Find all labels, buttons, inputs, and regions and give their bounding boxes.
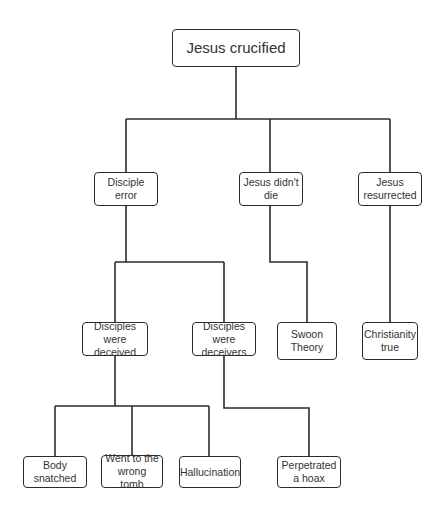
- node-label: Went to the wrong tomb: [105, 452, 159, 491]
- tree-diagram: Jesus crucified Disciple error Jesus did…: [0, 0, 446, 523]
- node-jesus-resurrected: Jesus resurrected: [358, 172, 422, 206]
- node-disciple-error: Disciple error: [94, 172, 158, 206]
- node-swoon-theory: Swoon Theory: [277, 322, 337, 360]
- node-label: Jesus didn't die: [243, 176, 299, 202]
- node-label: Hallucination: [180, 466, 240, 479]
- node-label: Jesus resurrected: [362, 176, 418, 202]
- node-christianity-true: Christianity true: [362, 322, 418, 360]
- node-label: Body snatched: [27, 459, 83, 485]
- node-label: Perpetrated a hoax: [281, 459, 337, 485]
- node-jesus-didnt-die: Jesus didn't die: [239, 172, 303, 206]
- connector-to-swoon-theory: [270, 206, 307, 322]
- node-jesus-crucified: Jesus crucified: [172, 29, 300, 67]
- connector-layer: [0, 0, 446, 523]
- node-label: Swoon Theory: [281, 328, 333, 354]
- node-label: Disciples were deceived: [86, 320, 144, 359]
- node-label: Disciples were deceivers: [196, 320, 252, 359]
- node-body-snatched: Body snatched: [23, 456, 87, 488]
- node-label: Disciple error: [98, 176, 154, 202]
- node-disciples-deceivers: Disciples were deceivers: [192, 322, 256, 356]
- node-hallucination: Hallucination: [179, 456, 241, 488]
- node-wrong-tomb: Went to the wrong tomb: [101, 455, 163, 488]
- node-perpetrated-hoax: Perpetrated a hoax: [277, 456, 341, 488]
- node-disciples-deceived: Disciples were deceived: [82, 322, 148, 356]
- node-label: Jesus crucified: [186, 39, 285, 57]
- node-label: Christianity true: [364, 328, 416, 354]
- connector-to-perpetrated-hoax: [224, 356, 309, 456]
